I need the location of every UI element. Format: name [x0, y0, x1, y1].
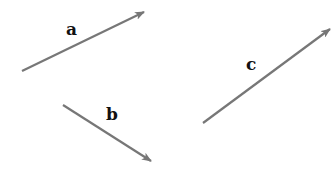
vector-a: a: [22, 12, 144, 71]
vector-c: c: [203, 29, 330, 123]
vector-a-arrow-icon: [22, 12, 144, 71]
vector-diagram-svg: a b c: [0, 0, 331, 176]
vector-c-arrow-icon: [203, 29, 330, 123]
vector-a-label: a: [66, 19, 77, 39]
vector-c-label: c: [246, 54, 256, 74]
vector-b-label: b: [106, 104, 118, 124]
vector-b: b: [63, 104, 151, 161]
vector-diagram: a b c: [0, 0, 331, 176]
